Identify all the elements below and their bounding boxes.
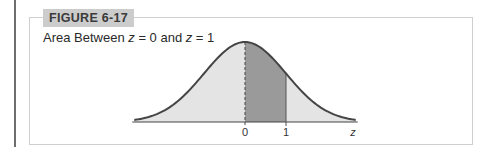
normal-curve-chart: 01 z <box>0 0 497 156</box>
x-ticks: 01 <box>242 126 289 138</box>
x-tick-label: 1 <box>283 126 289 138</box>
x-tick-label: 0 <box>242 126 248 138</box>
shaded-region <box>245 42 286 122</box>
x-axis-label: z <box>349 126 356 138</box>
